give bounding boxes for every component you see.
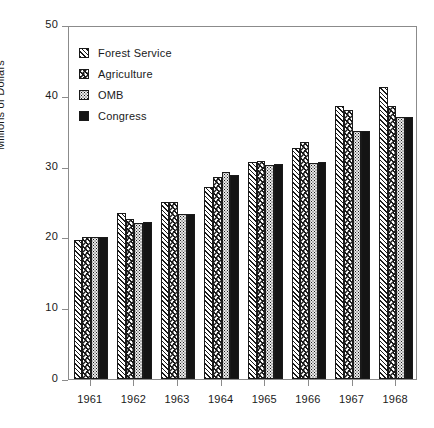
bar bbox=[379, 87, 388, 379]
legend-label: Agriculture bbox=[98, 68, 153, 80]
bar bbox=[396, 117, 405, 379]
y-tick-label: 50 bbox=[45, 18, 58, 30]
x-tick-label: 1961 bbox=[68, 393, 112, 405]
bar bbox=[230, 175, 239, 379]
y-tick-label: 10 bbox=[45, 301, 58, 313]
bar bbox=[274, 164, 283, 379]
legend-item: Congress bbox=[79, 105, 172, 126]
legend-label: OMB bbox=[98, 89, 124, 101]
x-tick-mark bbox=[221, 380, 222, 386]
chart-legend: Forest ServiceAgricultureOMBCongress bbox=[79, 42, 172, 126]
bar bbox=[361, 131, 370, 379]
bar bbox=[318, 162, 327, 379]
bar bbox=[169, 202, 178, 379]
y-tick-label: 0 bbox=[52, 372, 58, 384]
x-tick-label: 1967 bbox=[330, 393, 374, 405]
bar bbox=[309, 163, 318, 379]
bar bbox=[257, 161, 266, 379]
y-tick-label: 40 bbox=[45, 89, 58, 101]
legend-label: Congress bbox=[98, 110, 147, 122]
bar-chart: Millions of Dollars 01020304050 19611962… bbox=[0, 0, 434, 428]
x-tick-label: 1966 bbox=[286, 393, 330, 405]
bar bbox=[222, 172, 231, 379]
bar bbox=[300, 142, 309, 379]
x-tick-mark bbox=[308, 380, 309, 386]
x-tick-label: 1962 bbox=[111, 393, 155, 405]
bar bbox=[143, 222, 152, 379]
y-tick-label: 30 bbox=[45, 160, 58, 172]
legend-swatch-icon bbox=[79, 48, 89, 58]
legend-swatch-icon bbox=[79, 111, 89, 121]
legend-item: OMB bbox=[79, 84, 172, 105]
x-tick-mark bbox=[395, 380, 396, 386]
legend-item: Forest Service bbox=[79, 42, 172, 63]
bar bbox=[126, 219, 135, 379]
y-tick-label: 20 bbox=[45, 230, 58, 242]
bar bbox=[74, 240, 83, 379]
bar bbox=[335, 106, 344, 379]
legend-item: Agriculture bbox=[79, 63, 172, 84]
legend-swatch-icon bbox=[79, 69, 89, 79]
y-tick-mark bbox=[62, 380, 68, 381]
x-tick-label: 1964 bbox=[199, 393, 243, 405]
bar bbox=[187, 214, 196, 379]
bar bbox=[353, 131, 362, 379]
x-tick-label: 1963 bbox=[155, 393, 199, 405]
x-tick-mark bbox=[177, 380, 178, 386]
bar bbox=[248, 162, 257, 379]
bar bbox=[82, 237, 91, 379]
bar bbox=[213, 177, 222, 379]
bar bbox=[117, 213, 126, 379]
legend-label: Forest Service bbox=[98, 47, 172, 59]
y-axis-title: Millions of Dollars bbox=[0, 0, 6, 150]
x-tick-mark bbox=[90, 380, 91, 386]
bar bbox=[204, 187, 213, 379]
bar bbox=[99, 237, 108, 379]
x-tick-mark bbox=[352, 380, 353, 386]
legend-swatch-icon bbox=[79, 90, 89, 100]
bar bbox=[344, 110, 353, 379]
bar bbox=[265, 165, 274, 379]
x-tick-label: 1968 bbox=[373, 393, 417, 405]
bar bbox=[405, 117, 414, 379]
bar bbox=[292, 148, 301, 379]
bar bbox=[161, 202, 170, 379]
bar bbox=[134, 223, 143, 379]
x-tick-mark bbox=[133, 380, 134, 386]
bar bbox=[178, 214, 187, 379]
x-tick-mark bbox=[264, 380, 265, 386]
x-tick-label: 1965 bbox=[242, 393, 286, 405]
bar bbox=[91, 237, 100, 379]
bar bbox=[388, 106, 397, 379]
